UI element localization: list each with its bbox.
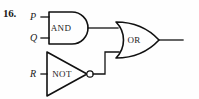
inverter-bubble-icon	[87, 71, 93, 77]
not-gate-label: NOT	[52, 69, 72, 79]
or-gate-label: OR	[127, 35, 140, 45]
circuit-schematic: AND OR NOT	[0, 0, 199, 99]
and-gate-label: AND	[51, 23, 72, 33]
wire-not-to-or	[93, 52, 119, 74]
logic-circuit-figure: 16. P Q R AND OR NOT	[0, 0, 199, 99]
